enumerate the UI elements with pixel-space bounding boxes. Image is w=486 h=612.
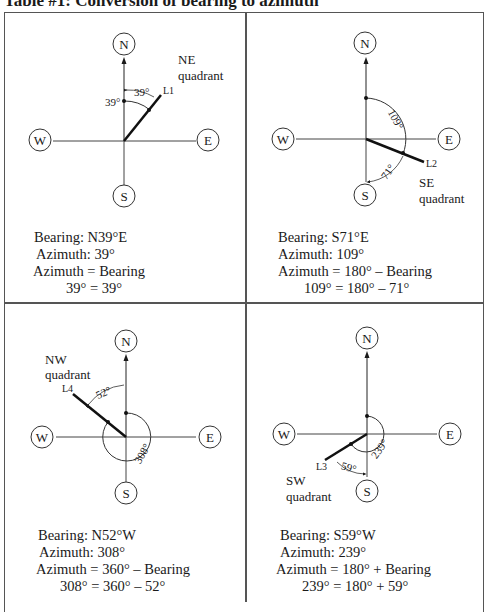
bearing-text: Bearing: N39°E [34, 229, 145, 246]
svg-text:NE: NE [178, 52, 195, 67]
svg-text:quadrant: quadrant [286, 489, 332, 504]
svg-text:S: S [120, 189, 127, 204]
svg-text:E: E [445, 132, 453, 147]
svg-text:59°: 59° [340, 459, 358, 475]
svg-text:W: W [278, 427, 291, 442]
line-l3 [325, 434, 367, 460]
svg-text:N: N [121, 334, 131, 349]
svg-text:quadrant: quadrant [419, 191, 465, 206]
svg-text:N: N [362, 331, 372, 346]
sw-caption: Bearing: S59°W Azimuth: 239° Azimuth = 1… [280, 527, 431, 595]
azimuth-text: Azimuth: 39° [34, 246, 145, 263]
formula-text: Azimuth = 180° + Bearing [276, 561, 431, 578]
formula-text: Azimuth = 360° – Bearing [36, 561, 190, 578]
svg-text:quadrant: quadrant [178, 68, 224, 83]
svg-text:L3: L3 [316, 461, 327, 472]
bearing-text: Bearing: N52°W [38, 527, 190, 544]
svg-text:E: E [446, 427, 454, 442]
svg-text:39°: 39° [105, 96, 120, 108]
ne-compass-diagram: N W E S 39° 39° L1 NE quadrant [29, 33, 224, 207]
svg-text:SE: SE [419, 175, 434, 190]
computation-text: 239° = 180° + 59° [280, 578, 431, 595]
svg-text:NW: NW [45, 352, 67, 367]
svg-text:S: S [122, 486, 129, 501]
nw-compass-diagram: N W E S 52° 308° L4 NW quadrant [31, 330, 221, 504]
svg-text:S: S [361, 188, 368, 203]
svg-text:239°: 239° [368, 437, 390, 461]
svg-text:N: N [360, 36, 370, 51]
svg-text:52°: 52° [94, 384, 113, 401]
svg-text:L2: L2 [426, 158, 437, 169]
formula-text: Azimuth = 180° – Bearing [278, 263, 432, 280]
svg-text:L1: L1 [163, 85, 174, 96]
svg-text:N: N [119, 37, 129, 52]
svg-text:W: W [34, 133, 47, 148]
svg-text:SW: SW [286, 473, 306, 488]
computation-text: 109° = 180° – 71° [278, 280, 432, 297]
svg-text:W: W [36, 430, 49, 445]
azimuth-text: Azimuth: 109° [278, 246, 432, 263]
svg-text:E: E [206, 430, 214, 445]
svg-text:W: W [277, 132, 290, 147]
se-compass-diagram: N W E S 109° 71° L2 SE quadrant [272, 32, 465, 206]
line-l1 [124, 95, 161, 141]
svg-text:39°: 39° [134, 86, 149, 98]
se-caption: Bearing: S71°E Azimuth: 109° Azimuth = 1… [278, 229, 432, 297]
sw-compass-diagram: N W E S 59° 239° L3 SW quadrant [273, 327, 461, 504]
svg-text:quadrant: quadrant [45, 367, 91, 382]
ne-caption: Bearing: N39°E Azimuth: 39° Azimuth = Be… [34, 229, 145, 297]
formula-text: Azimuth = Bearing [33, 263, 145, 280]
bearing-text: Bearing: S71°E [278, 229, 432, 246]
line-l2 [366, 139, 424, 162]
azimuth-text: Azimuth: 308° [38, 544, 190, 561]
svg-text:E: E [204, 133, 212, 148]
svg-text:L4: L4 [62, 383, 73, 394]
bearing-text: Bearing: S59°W [280, 527, 431, 544]
svg-text:109°: 109° [386, 107, 406, 131]
computation-text: 308° = 360° – 52° [38, 578, 190, 595]
azimuth-text: Azimuth: 239° [280, 544, 431, 561]
computation-text: 39° = 39° [34, 280, 145, 297]
svg-text:S: S [363, 484, 370, 499]
nw-caption: Bearing: N52°W Azimuth: 308° Azimuth = 3… [38, 527, 190, 595]
